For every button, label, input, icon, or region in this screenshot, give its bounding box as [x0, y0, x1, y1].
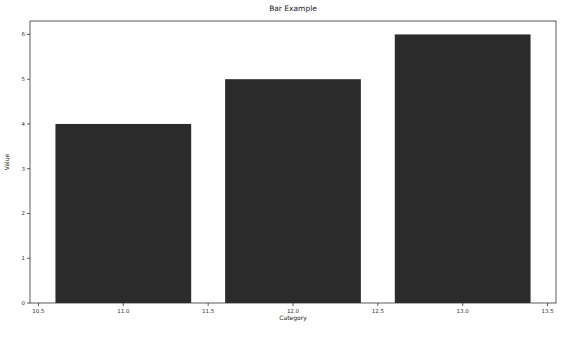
x-tick-label: 11.5	[202, 308, 215, 314]
x-axis: 10.511.011.512.012.513.013.5	[32, 303, 554, 314]
y-tick-label: 0	[22, 300, 26, 306]
x-tick-label: 10.5	[32, 308, 45, 314]
x-axis-label: Category	[279, 314, 307, 322]
x-tick-label: 12.5	[372, 308, 385, 314]
x-tick-label: 13.0	[457, 308, 470, 314]
y-tick-label: 1	[22, 255, 26, 261]
plot-area	[55, 34, 530, 303]
bar	[225, 79, 361, 303]
bar	[395, 34, 531, 303]
y-tick-label: 2	[22, 210, 26, 216]
bar-chart: Bar Example 0123456 10.511.011.512.012.5…	[0, 0, 578, 339]
y-tick-label: 3	[22, 166, 26, 172]
y-tick-label: 4	[22, 121, 26, 127]
chart-title: Bar Example	[269, 4, 317, 13]
y-axis: 0123456	[22, 31, 31, 306]
x-tick-label: 13.5	[541, 308, 554, 314]
x-tick-label: 11.0	[117, 308, 130, 314]
y-axis-label: Value	[3, 153, 10, 170]
y-tick-label: 5	[22, 76, 26, 82]
y-tick-label: 6	[22, 31, 26, 37]
bar	[55, 124, 191, 303]
